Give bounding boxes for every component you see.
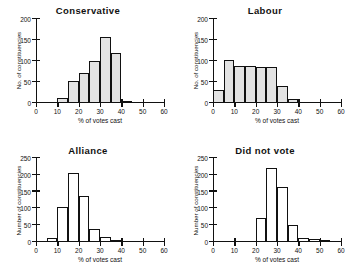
x-axis-tick-inner [36, 99, 37, 103]
x-axis-tick-label: 0 [34, 247, 38, 254]
y-axis-tick-label: 150 [20, 37, 31, 44]
y-axis-tick-inner [213, 81, 217, 82]
x-axis-tick [213, 103, 214, 107]
x-axis-tick [320, 242, 321, 246]
x-axis-tick-label: 20 [75, 108, 82, 115]
chart-panel: Did not vote0501001502002500102030405060… [177, 140, 353, 280]
y-axis-tick-label: 50 [24, 79, 31, 86]
x-axis-tick-inner [320, 99, 321, 103]
x-axis-tick [121, 103, 122, 107]
chart-panel: Conservative0501001502000102030405060% o… [0, 0, 176, 140]
x-axis-tick-inner [341, 99, 342, 103]
histogram-bar [277, 187, 288, 242]
histogram-bar [224, 60, 235, 103]
x-axis-tick-label: 50 [139, 108, 146, 115]
x-axis-tick-label: 30 [273, 108, 280, 115]
x-axis-tick [57, 242, 58, 246]
x-axis-tick-label: 50 [316, 108, 323, 115]
y-axis-tick-inner [36, 39, 40, 40]
x-axis-tick-label: 10 [54, 108, 61, 115]
y-axis-line [36, 19, 37, 103]
x-axis-tick [320, 103, 321, 107]
histogram-bar [213, 90, 224, 103]
y-axis-tick-label: 150 [20, 188, 31, 195]
x-axis-tick-label: 20 [75, 247, 82, 254]
y-axis-tick-label: 200 [20, 171, 31, 178]
plot-area: 0501001502002500102030405060% of votes c… [36, 158, 164, 242]
x-axis-tick-label: 40 [118, 247, 125, 254]
x-axis-tick [234, 242, 235, 246]
y-axis-tick-inner [36, 174, 40, 175]
y-axis-tick-inner [213, 207, 217, 208]
y-axis-tick-label: 200 [20, 16, 31, 23]
y-axis-tick-inner [36, 18, 40, 19]
x-axis-tick-label: 60 [337, 247, 344, 254]
x-axis-tick-inner [164, 99, 165, 103]
x-axis-tick [298, 242, 299, 246]
x-axis-tick [57, 103, 58, 107]
y-axis-tick-inner [36, 81, 40, 82]
histogram-bar [79, 196, 90, 242]
y-axis-tick-label: 100 [197, 205, 208, 212]
x-axis-tick-label: 30 [96, 108, 103, 115]
histogram-bar [89, 61, 100, 103]
histogram-bar [100, 37, 111, 103]
y-axis-tick-label: 50 [201, 79, 208, 86]
y-axis-line [213, 158, 214, 242]
y-axis-tick-label: 250 [197, 155, 208, 162]
x-axis-tick [341, 103, 342, 107]
histogram-bar [309, 239, 320, 242]
x-axis-tick-label: 60 [160, 108, 167, 115]
x-axis-tick [256, 242, 257, 246]
y-axis-tick-inner [213, 224, 217, 225]
y-axis-tick-inner [213, 39, 217, 40]
x-axis-tick-label: 60 [337, 108, 344, 115]
y-axis-tick-label: 50 [201, 222, 208, 229]
x-axis-tick [298, 103, 299, 107]
x-axis-title: % of votes cast [213, 256, 341, 263]
y-axis-tick-inner [213, 18, 217, 19]
x-axis-tick-label: 0 [34, 108, 38, 115]
x-axis-tick-label: 20 [252, 108, 259, 115]
histogram-bar [266, 67, 277, 103]
x-axis-tick-label: 40 [118, 108, 125, 115]
histogram-bar [47, 238, 58, 242]
y-axis-tick-label: 150 [197, 37, 208, 44]
histogram-bar [234, 66, 245, 103]
y-axis-tick-label: 250 [20, 155, 31, 162]
x-axis-tick-inner [143, 238, 144, 242]
y-axis-tick-label: 150 [197, 188, 208, 195]
y-axis-tick-label: 0 [204, 239, 208, 246]
x-axis-tick-label: 20 [252, 247, 259, 254]
y-axis-title: No. of constituencies [15, 19, 22, 103]
y-axis-tick-inner [213, 190, 217, 191]
x-axis-tick-label: 10 [231, 108, 238, 115]
histogram-bar [256, 218, 267, 242]
y-axis-tick-label: 0 [27, 100, 31, 107]
chart-panel: Labour0501001502000102030405060% of vote… [177, 0, 353, 140]
y-axis-tick-label: 200 [197, 16, 208, 23]
histogram-bar [266, 168, 277, 242]
x-axis-tick [100, 103, 101, 107]
histogram-bar [111, 240, 122, 242]
x-axis-tick [143, 242, 144, 246]
x-axis-tick-label: 0 [211, 247, 215, 254]
y-axis-tick-inner [36, 224, 40, 225]
plot-area: 0501001502000102030405060% of votes cast [213, 19, 341, 103]
x-axis-tick [100, 242, 101, 246]
histogram-bar [288, 225, 299, 242]
x-axis-tick [277, 242, 278, 246]
x-axis-tick-inner [213, 238, 214, 242]
y-axis-tick-inner [36, 157, 40, 158]
x-axis-tick [36, 242, 37, 246]
histogram-bar [111, 53, 122, 103]
y-axis-tick-inner [36, 60, 40, 61]
x-axis-tick-label: 10 [231, 247, 238, 254]
y-axis-line [36, 158, 37, 242]
chart-panel: Alliance0501001502002500102030405060% of… [0, 140, 176, 280]
x-axis-tick [256, 103, 257, 107]
y-axis-tick-label: 200 [197, 171, 208, 178]
x-axis-tick-label: 50 [139, 247, 146, 254]
x-axis-tick-inner [298, 99, 299, 103]
x-axis-tick-inner [234, 238, 235, 242]
